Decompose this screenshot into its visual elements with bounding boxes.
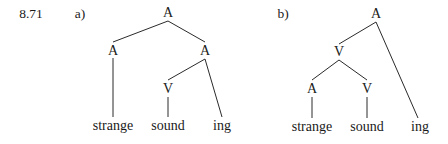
edge [339, 22, 376, 44]
example-number: 8.71 [19, 7, 43, 21]
tree-b-leaf-sound: sound [350, 120, 383, 134]
edge [376, 22, 418, 118]
tree-a-left-node: A [108, 44, 118, 58]
tree-a-root-node: A [163, 6, 173, 20]
tree-b-leaf-strange: strange [292, 120, 332, 134]
tree-b-verb-node: V [334, 45, 344, 59]
tree-b-verb2-node: V [362, 82, 372, 96]
tree-b-root-node: A [371, 7, 381, 21]
tree-a-leaf-ing: ing [213, 119, 231, 133]
tree-a-right-node: A [200, 44, 210, 58]
edge [113, 21, 168, 42]
tree-a-leaf-sound: sound [151, 119, 184, 133]
tree-a-leaf-strange: strange [93, 119, 133, 133]
tree-b-adj-node: A [307, 82, 317, 96]
tree-b-leaf-ing: ing [411, 120, 429, 134]
edge [168, 21, 205, 42]
edge [168, 59, 205, 80]
edge [339, 60, 367, 80]
tree-b-label: b) [277, 7, 288, 21]
edge [205, 59, 222, 117]
tree-a-label: a) [75, 7, 86, 21]
edge [312, 60, 339, 80]
tree-a-verb-node: V [163, 82, 173, 96]
